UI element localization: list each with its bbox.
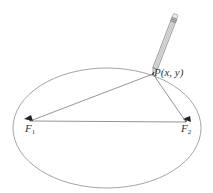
ellipse-diagram: P(x, y) F1 F2 xyxy=(0,0,213,193)
focus-f1-label: F1 xyxy=(25,123,35,136)
diagram-svg xyxy=(0,0,213,193)
string-p-to-f2 xyxy=(153,74,186,122)
focus-f2-label: F2 xyxy=(181,123,191,136)
point-p-label: P(x, y) xyxy=(154,67,183,78)
focus-f1-letter: F xyxy=(25,122,32,134)
focus-f1-subscript: 1 xyxy=(32,128,36,136)
ellipse-curve xyxy=(13,68,201,188)
focal-axis-f1-to-f2 xyxy=(30,121,186,122)
pin-icon-f1 xyxy=(24,115,33,121)
focus-f2-subscript: 2 xyxy=(188,128,192,136)
focus-f2-letter: F xyxy=(181,122,188,134)
